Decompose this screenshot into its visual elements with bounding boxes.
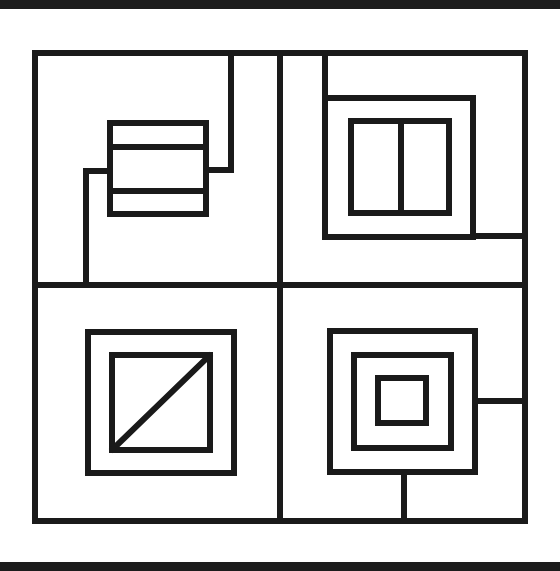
quadrant-top-right — [325, 53, 525, 237]
diagonal-line — [113, 356, 209, 449]
quadrant-top-left — [86, 53, 231, 285]
puzzle-diagram — [0, 0, 560, 571]
inner-concentric-square — [378, 378, 426, 423]
middle-concentric-square — [354, 355, 451, 448]
banded-rectangle — [110, 123, 206, 214]
quadrant-bottom-left — [88, 332, 234, 473]
connector-to-bottom — [86, 171, 110, 285]
connector-to-top — [206, 53, 231, 170]
quadrant-bottom-right — [330, 331, 525, 521]
